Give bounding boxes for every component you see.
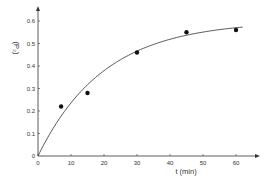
data-point <box>59 104 63 108</box>
x-tick-label: 30 <box>134 160 141 166</box>
x-tick-label: 50 <box>200 160 207 166</box>
chart: 010203040506000.10.20.30.40.50.6 t (min)… <box>0 0 271 184</box>
data-points <box>59 28 238 109</box>
y-tick-label: 0.1 <box>27 131 36 137</box>
x-tick-label: 60 <box>233 160 240 166</box>
y-axis-arrow-icon <box>36 6 40 11</box>
x-tick-label: 10 <box>68 160 75 166</box>
y-tick-label: 0 <box>32 153 36 159</box>
fitted-curve <box>38 27 243 156</box>
x-axis-label: t (min) <box>175 167 197 176</box>
y-tick-label: 0.2 <box>27 108 36 114</box>
fit-line <box>38 27 243 156</box>
y-tick-label: 0.3 <box>27 86 36 92</box>
data-point <box>184 30 188 34</box>
data-point <box>135 50 139 54</box>
x-tick-label: 40 <box>167 160 174 166</box>
y-tick-label: 0.6 <box>27 18 36 24</box>
x-tick-label: 0 <box>36 160 40 166</box>
x-tick-label: 20 <box>101 160 108 166</box>
data-point <box>234 28 238 32</box>
x-axis-arrow-icon <box>255 154 260 158</box>
data-point <box>85 91 89 95</box>
y-tick-label: 0.4 <box>27 63 36 69</box>
chart-svg: 010203040506000.10.20.30.40.50.6 t (min)… <box>0 0 271 184</box>
axes: 010203040506000.10.20.30.40.50.6 <box>27 6 260 166</box>
y-axis-label: (P₂) <box>12 42 21 55</box>
y-tick-label: 0.5 <box>27 41 36 47</box>
